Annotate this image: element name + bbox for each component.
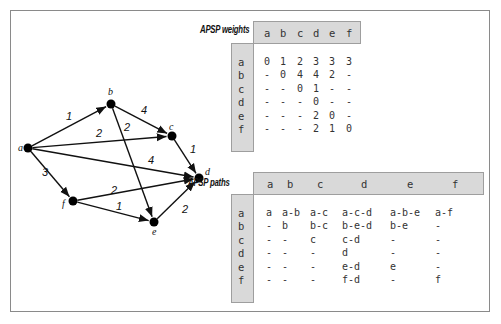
table-cell: 0	[346, 123, 352, 135]
edge-weight-label: 3	[42, 166, 49, 178]
table-cell: -	[390, 247, 396, 259]
node-c	[168, 132, 177, 141]
column-header-c: c	[317, 178, 323, 190]
edge-weight-label: 4	[148, 154, 154, 166]
table-cell: 0	[264, 56, 270, 68]
node-label: e	[152, 226, 157, 237]
column-header-f: f	[346, 27, 352, 39]
row-header-d: d	[238, 247, 244, 259]
table-cell: -	[266, 247, 272, 259]
column-header-b: b	[280, 27, 286, 39]
table-cell: -	[264, 110, 270, 122]
table-cell: b-e	[390, 220, 408, 232]
table-cell: -	[266, 234, 272, 246]
column-header-a: a	[264, 27, 270, 39]
table-cell: 0	[313, 96, 319, 108]
row-header-d: d	[238, 96, 244, 108]
table-cell: -	[282, 274, 288, 286]
edge-f-d	[77, 179, 193, 200]
table-cell: b-e-d	[342, 220, 372, 232]
table-cell: -	[264, 83, 270, 95]
edge-weight-label: 4	[141, 104, 147, 116]
table-cell: 0	[297, 83, 303, 95]
table-cell: -	[346, 96, 352, 108]
edge-weight-label: 2	[123, 121, 130, 133]
table-cell: -	[435, 220, 441, 232]
table-cell: -	[264, 123, 270, 135]
table-cell: f	[435, 274, 441, 286]
table-cell: 1	[280, 56, 286, 68]
table-cell: -	[310, 261, 316, 273]
table-cell: -	[346, 83, 352, 95]
table-cell: 3	[313, 56, 319, 68]
node-label: c	[169, 121, 174, 132]
column-header-d: d	[313, 27, 319, 39]
table-cell: e	[390, 261, 396, 273]
edge-weight-label: 2	[95, 127, 102, 139]
table-cell: 1	[329, 123, 335, 135]
table-cell: a-b	[282, 207, 300, 219]
table-cell: -	[297, 123, 303, 135]
column-header-d: d	[361, 178, 367, 190]
row-header-f: f	[238, 123, 244, 135]
table-cell: -	[280, 96, 286, 108]
edge-weight-label: 1	[66, 110, 72, 122]
node-f	[69, 197, 78, 206]
edge-weight-label: 2	[110, 184, 117, 196]
row-header-b: b	[238, 69, 244, 81]
row-header-e: e	[238, 110, 244, 122]
edge-a-d	[32, 149, 193, 177]
table-cell: -	[346, 69, 352, 81]
table-cell: 3	[346, 56, 352, 68]
table-cell: 3	[329, 56, 335, 68]
table-cell: -	[280, 83, 286, 95]
table-cell: e-d	[342, 261, 360, 273]
table-cell: c-d	[342, 234, 360, 246]
table-cell: -	[280, 110, 286, 122]
table-cell: -	[390, 234, 396, 246]
table-cell: a-c	[310, 207, 328, 219]
table-cell: -	[435, 261, 441, 273]
table-cell: 0	[329, 110, 335, 122]
table-cell: a-b-e	[390, 207, 420, 219]
node-a	[24, 144, 33, 153]
table-cell: 4	[313, 69, 319, 81]
row-header-c: c	[238, 234, 244, 246]
column-header-a: a	[267, 178, 273, 190]
table-cell: -	[280, 123, 286, 135]
row-header-f: f	[238, 274, 244, 286]
table-cell: -	[266, 261, 272, 273]
edge-weight-label: 1	[190, 143, 196, 155]
table-cell: f-d	[342, 274, 360, 286]
edge-weight-label: 1	[116, 200, 122, 212]
table-cell: a-c-d	[342, 207, 372, 219]
table-cell: -	[266, 220, 272, 232]
paths-table-caption: APSP paths	[188, 177, 230, 188]
node-label: d	[205, 166, 211, 177]
table-cell: c	[310, 234, 316, 246]
row-header-c: c	[238, 83, 244, 95]
row-header-a: a	[238, 207, 244, 219]
table-cell: -	[297, 96, 303, 108]
table-cell: -	[297, 110, 303, 122]
table-cell: d	[342, 247, 348, 259]
table-cell: -	[390, 274, 396, 286]
table-cell: 2	[329, 69, 335, 81]
column-header-e: e	[329, 27, 335, 39]
table-cell: 2	[297, 56, 303, 68]
table-cell: b-c	[310, 220, 328, 232]
edge-a-f	[31, 151, 70, 196]
table-cell: -	[264, 96, 270, 108]
table-cell: -	[346, 110, 352, 122]
table-cell: a-f	[435, 207, 453, 219]
table-cell: -	[310, 247, 316, 259]
edge-weight-label: 2	[181, 203, 188, 215]
column-header-e: e	[407, 178, 413, 190]
table-cell: -	[266, 274, 272, 286]
table-cell: a	[266, 207, 272, 219]
table-cell: 0	[280, 69, 286, 81]
table-cell: 2	[313, 110, 319, 122]
node-label: a	[18, 142, 23, 153]
table-cell: -	[264, 69, 270, 81]
table-cell: -	[435, 234, 441, 246]
